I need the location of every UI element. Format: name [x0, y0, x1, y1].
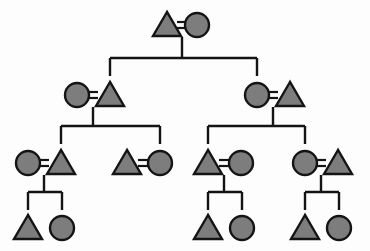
descent-group-descent-g3-d [305, 175, 339, 210]
individual-female-g2-f2 [245, 83, 269, 107]
individual-male-g4-m2 [194, 215, 222, 239]
individual-female-g4-f1 [50, 216, 74, 240]
individual-male-g3-m2 [113, 150, 141, 174]
individual-male-g3-m1 [47, 150, 75, 174]
individual-female-g4-f3 [327, 216, 351, 240]
individual-female-g3-f4 [293, 151, 317, 175]
descent-group-descent-g1 [110, 37, 257, 76]
individual-male-g3-m3 [194, 150, 222, 174]
individual-female-g2-f1 [65, 83, 89, 107]
individual-female-g3-f3 [229, 151, 253, 175]
descent-group-descent-g3-c [208, 175, 242, 210]
individual-male-g1-m1 [153, 12, 181, 36]
descent-group-descent-g2-left [61, 107, 160, 144]
individual-female-g3-f1 [16, 151, 40, 175]
individual-male-g4-m3 [291, 215, 319, 239]
individual-male-g4-m1 [14, 215, 42, 239]
individual-male-g2-m2 [276, 82, 304, 106]
union-symbol-union-g3-c [219, 160, 229, 166]
individual-female-g3-f2 [148, 151, 172, 175]
union-symbol-union-g3-b [138, 160, 148, 166]
descent-group-descent-g3-a [28, 175, 62, 210]
individual-male-g2-m1 [96, 82, 124, 106]
individual-female-g4-f2 [230, 216, 254, 240]
kinship-lines-layer [28, 37, 339, 210]
individual-male-g3-m4 [324, 150, 352, 174]
pedigree-canvas [0, 0, 370, 251]
pedigree-diagram [0, 0, 370, 251]
individual-female-g1-f1 [185, 13, 209, 37]
descent-group-descent-g2-right [208, 107, 305, 144]
